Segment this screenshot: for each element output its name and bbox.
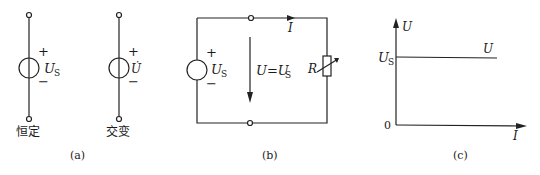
x-axis-label: I <box>512 129 518 143</box>
panel-c <box>393 18 527 129</box>
origin-label: 0 <box>384 119 391 132</box>
ac-source-label: 交变 <box>106 124 130 139</box>
terminal-top <box>27 13 32 18</box>
source-plus-sign: + <box>206 45 217 60</box>
circuit-figure: + − U S 恒定 + − U̇ 交变 (a) + − U S I U=U S… <box>0 0 540 175</box>
constant-voltage-line <box>396 57 497 58</box>
caption-b: (b) <box>262 149 278 162</box>
ac-source-symbol: U̇ <box>131 61 142 76</box>
line-label: U <box>483 42 494 56</box>
y-axis-arrow-icon <box>393 18 399 28</box>
terminal-top <box>117 13 122 18</box>
caption-a: (a) <box>70 149 85 162</box>
y-axis-label: U <box>402 20 413 34</box>
voltage-arrow-icon <box>247 92 253 103</box>
dc-plus-sign: + <box>38 44 49 59</box>
terminal-bottom <box>248 121 253 126</box>
resistor-label: R <box>307 62 317 76</box>
ac-plus-sign: + <box>128 44 139 59</box>
level-subscript: S <box>388 57 394 67</box>
dc-minus-sign: − <box>38 74 49 89</box>
source-minus-sign: − <box>206 76 217 91</box>
caption-c: (c) <box>453 149 468 162</box>
dc-source-subscript: S <box>54 68 60 78</box>
ac-minus-sign: − <box>128 74 139 89</box>
terminal-top <box>249 16 254 21</box>
panel-a <box>19 13 129 122</box>
terminal-bottom <box>27 117 32 122</box>
dc-source-label: 恒定 <box>16 124 40 139</box>
current-label: I <box>287 21 293 35</box>
x-axis <box>396 125 522 126</box>
voltage-source-icon <box>187 60 207 80</box>
voltage-subscript: S <box>285 70 291 80</box>
terminal-bottom <box>117 117 122 122</box>
source-subscript: S <box>221 69 227 79</box>
